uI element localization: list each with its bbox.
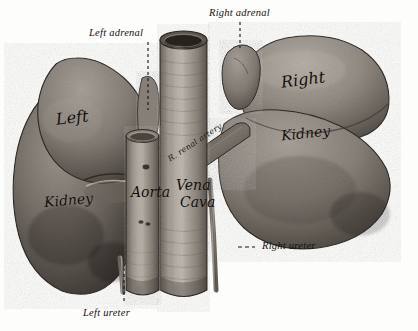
specimen-illustration xyxy=(0,0,418,331)
caption-left-ureter: Left ureter xyxy=(83,308,130,319)
anatomical-figure: Right adrenal Left adrenal Right ureter … xyxy=(0,0,418,331)
caption-left-adrenal: Left adrenal xyxy=(89,28,143,39)
ink-label-left: Left xyxy=(55,108,89,127)
ink-label-left-kidney: Kidney xyxy=(43,191,93,209)
caption-right-ureter: Right ureter xyxy=(262,241,316,252)
ink-label-aorta: Aorta xyxy=(131,185,170,199)
caption-right-adrenal: Right adrenal xyxy=(209,8,270,19)
left-ureter-structure xyxy=(120,258,123,292)
vena-cava-structure xyxy=(160,31,207,297)
aorta-structure xyxy=(126,130,159,296)
ink-label-vena: Vena xyxy=(176,178,210,192)
ink-label-cava: Cava xyxy=(180,195,215,209)
